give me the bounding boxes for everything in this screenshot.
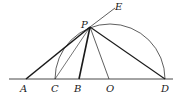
label-D: D (160, 83, 169, 94)
label-O: O (106, 83, 114, 94)
label-C: C (51, 83, 59, 94)
arc-CPD (55, 24, 165, 79)
segment-PO (90, 27, 109, 79)
geometry-diagram: A C B O D P E (0, 0, 176, 97)
label-P: P (80, 19, 88, 30)
segment-PD (90, 27, 165, 79)
label-E: E (114, 1, 123, 12)
label-B: B (73, 83, 81, 94)
label-A: A (19, 83, 27, 94)
